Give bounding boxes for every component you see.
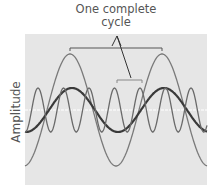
wave-diagram (0, 0, 215, 192)
y-axis-label: Amplitude (9, 72, 23, 152)
